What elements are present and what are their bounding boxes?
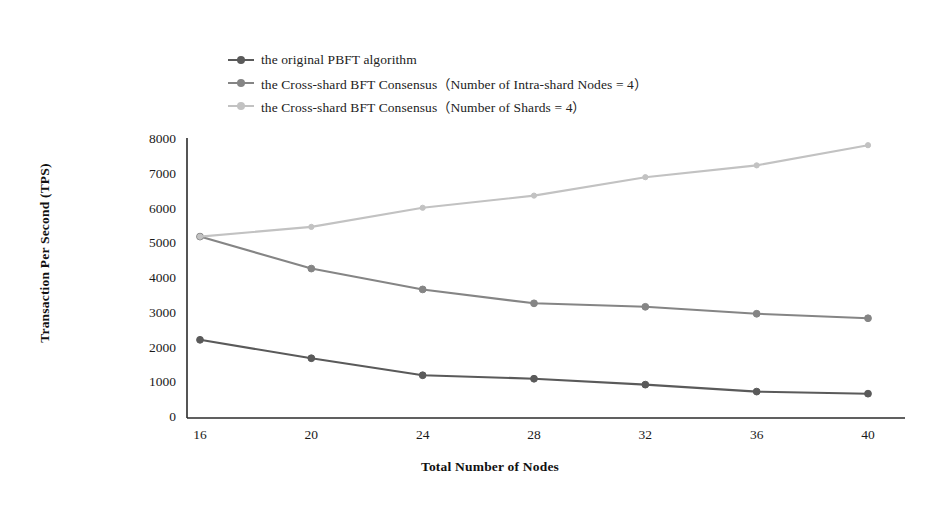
data-point-1-2 (419, 286, 426, 293)
y-tick-label-0: 0 (124, 409, 176, 425)
y-tick-label-6000: 6000 (124, 201, 176, 217)
data-point-2-5 (754, 163, 759, 168)
data-point-2-4 (643, 175, 648, 180)
x-tick-label-32: 32 (625, 427, 665, 443)
data-point-0-6 (865, 390, 872, 397)
data-point-2-2 (420, 205, 425, 210)
x-tick-label-28: 28 (514, 427, 554, 443)
x-tick-label-24: 24 (403, 427, 443, 443)
data-point-0-0 (197, 336, 204, 343)
y-tick-label-1000: 1000 (124, 374, 176, 390)
y-tick-label-3000: 3000 (124, 305, 176, 321)
x-axis-title: Total Number of Nodes (330, 459, 650, 475)
data-point-2-0 (197, 234, 202, 239)
y-tick-label-5000: 5000 (124, 235, 176, 251)
data-point-0-5 (753, 388, 760, 395)
y-tick-label-4000: 4000 (124, 270, 176, 286)
x-tick-label-20: 20 (291, 427, 331, 443)
data-point-1-5 (753, 310, 760, 317)
series-line-0 (200, 340, 868, 394)
data-point-0-1 (308, 355, 315, 362)
data-point-2-6 (865, 143, 870, 148)
y-axis-title: Transaction Per Second (TPS) (37, 123, 53, 383)
chart-figure: the original PBFT algorithm the Cross-sh… (0, 0, 947, 519)
data-point-1-1 (308, 265, 315, 272)
data-point-1-4 (642, 303, 649, 310)
x-tick-label-36: 36 (737, 427, 777, 443)
x-tick-label-16: 16 (180, 427, 220, 443)
y-tick-label-7000: 7000 (124, 166, 176, 182)
series-line-2 (200, 145, 868, 236)
data-point-0-2 (419, 372, 426, 379)
data-point-1-3 (531, 300, 538, 307)
data-point-0-4 (642, 381, 649, 388)
plot-svg (0, 0, 947, 519)
data-point-2-3 (531, 193, 536, 198)
data-point-0-3 (531, 375, 538, 382)
x-tick-label-40: 40 (848, 427, 888, 443)
y-tick-label-8000: 8000 (124, 131, 176, 147)
data-point-2-1 (309, 224, 314, 229)
y-tick-label-2000: 2000 (124, 340, 176, 356)
data-point-1-6 (865, 315, 872, 322)
plot-area: 010002000300040005000600070008000 162024… (0, 0, 947, 519)
